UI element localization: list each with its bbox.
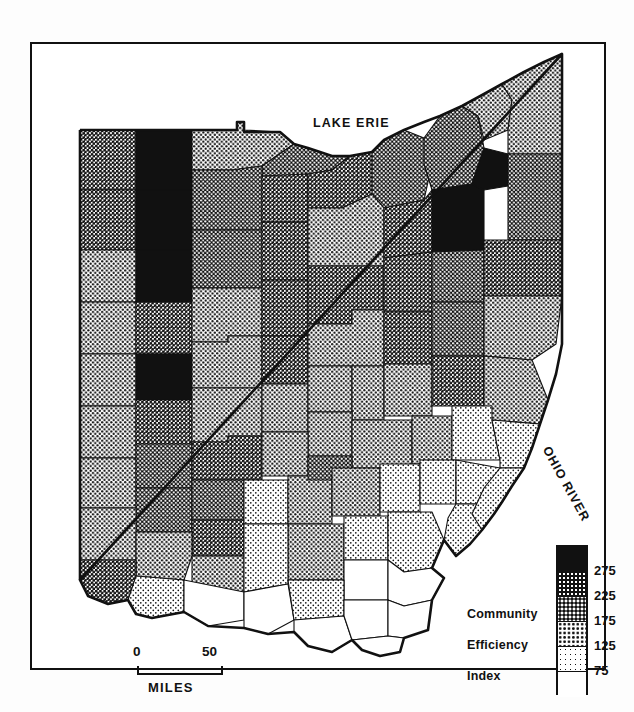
county-clark[interactable] xyxy=(192,480,244,520)
county-muskingum[interactable] xyxy=(412,416,452,464)
county-madison[interactable] xyxy=(262,432,308,476)
county-auglaize[interactable] xyxy=(136,354,192,400)
county-darke[interactable] xyxy=(80,406,136,458)
county-fulton[interactable] xyxy=(136,130,192,190)
county-union[interactable] xyxy=(262,384,308,432)
legend-caption-line-3: Index xyxy=(467,669,557,683)
county-sandusky[interactable] xyxy=(262,174,308,222)
county-clermont[interactable] xyxy=(128,576,184,618)
county-ross[interactable] xyxy=(288,524,344,580)
legend: 275 225 175 125 75 xyxy=(556,545,632,697)
scale-units-label: MILES xyxy=(148,680,194,695)
county-hardin[interactable] xyxy=(192,336,262,388)
county-mercer[interactable] xyxy=(80,354,136,406)
county-jackson[interactable] xyxy=(344,600,388,640)
county-wayne[interactable] xyxy=(384,252,432,312)
legend-value-275: 275 xyxy=(594,563,616,578)
legend-swatch-column xyxy=(556,545,588,695)
county-stark[interactable] xyxy=(432,302,484,356)
legend-swatch-225-275 xyxy=(558,572,586,597)
figure-canvas: LAKE ERIE OHIO RIVER 0 50 MILES Communit… xyxy=(0,0,634,712)
ohio-county-choropleth[interactable] xyxy=(32,44,604,668)
legend-swatch-125-175 xyxy=(558,622,586,647)
county-hancock[interactable] xyxy=(192,230,262,288)
legend-swatch-175-225 xyxy=(558,597,586,622)
county-holmes[interactable] xyxy=(384,312,432,364)
scale-tick-0: 0 xyxy=(133,644,141,659)
map-frame: LAKE ERIE OHIO RIVER 0 50 MILES Communit… xyxy=(30,42,606,670)
county-champaign[interactable] xyxy=(192,436,262,480)
county-fairfield[interactable] xyxy=(332,468,380,516)
county-wood[interactable] xyxy=(192,166,262,230)
scale-bar: 0 50 MILES xyxy=(128,644,278,710)
county-logan[interactable] xyxy=(192,388,262,442)
county-highland[interactable] xyxy=(244,524,288,592)
legend-caption: Community Efficiency Index xyxy=(467,607,557,700)
legend-value-225: 225 xyxy=(594,588,616,603)
county-defiance[interactable] xyxy=(80,190,136,250)
lake-erie-label: LAKE ERIE xyxy=(313,116,390,130)
county-fayette[interactable] xyxy=(244,480,288,524)
legend-value-175: 175 xyxy=(594,613,616,628)
county-seneca[interactable] xyxy=(262,222,308,280)
county-morrow[interactable] xyxy=(308,366,352,412)
map-stage xyxy=(32,44,604,668)
county-coshocton[interactable] xyxy=(384,364,432,416)
county-preble[interactable] xyxy=(80,458,136,508)
county-hocking[interactable] xyxy=(344,516,388,560)
county-greene[interactable] xyxy=(192,520,244,556)
county-trumbull[interactable] xyxy=(508,154,562,240)
county-crawford[interactable] xyxy=(262,280,308,336)
county-warren[interactable] xyxy=(136,532,192,580)
county-knox[interactable] xyxy=(352,366,384,420)
county-putnam[interactable] xyxy=(136,250,192,302)
county-wyandot[interactable] xyxy=(192,288,262,342)
county-summit[interactable] xyxy=(432,184,484,252)
county-henry[interactable] xyxy=(136,190,192,250)
county-morgan[interactable] xyxy=(420,460,456,504)
county-portage[interactable] xyxy=(432,250,484,302)
county-vinton[interactable] xyxy=(344,560,388,600)
county-mahoning[interactable] xyxy=(484,240,562,296)
legend-swatch-75-125 xyxy=(558,647,586,672)
county-williams[interactable] xyxy=(80,130,136,190)
county-shelby[interactable] xyxy=(136,400,192,444)
legend-swatch-over-275 xyxy=(558,547,586,572)
scale-tick-50: 50 xyxy=(202,644,217,659)
county-allen[interactable] xyxy=(136,302,192,354)
legend-value-75: 75 xyxy=(594,663,608,678)
scale-rule xyxy=(137,666,223,675)
legend-swatch-under-75 xyxy=(558,672,586,697)
county-butler[interactable] xyxy=(80,508,136,560)
county-licking[interactable] xyxy=(352,420,412,468)
county-pike[interactable] xyxy=(288,580,344,620)
county-tuscarawas[interactable] xyxy=(432,356,484,406)
county-vanwert[interactable] xyxy=(80,302,136,354)
legend-caption-line-2: Efficiency xyxy=(467,638,557,652)
county-marion[interactable] xyxy=(262,336,308,384)
county-pickaway[interactable] xyxy=(288,476,332,524)
county-delaware[interactable] xyxy=(308,412,352,456)
legend-caption-line-1: Community xyxy=(467,607,557,621)
county-perry[interactable] xyxy=(380,464,420,512)
legend-value-125: 125 xyxy=(594,638,616,653)
county-paulding[interactable] xyxy=(80,250,136,302)
